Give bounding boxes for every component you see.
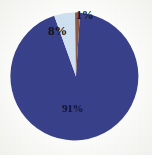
pie-chart-figure: 91% 8% 1% [0,0,152,155]
pie-slice-label-minor: 1% [76,9,94,21]
pie-chart-svg [0,0,152,155]
pie-slice-label-secondary: 8% [48,24,67,37]
pie-slice-label-major: 91% [62,103,83,114]
